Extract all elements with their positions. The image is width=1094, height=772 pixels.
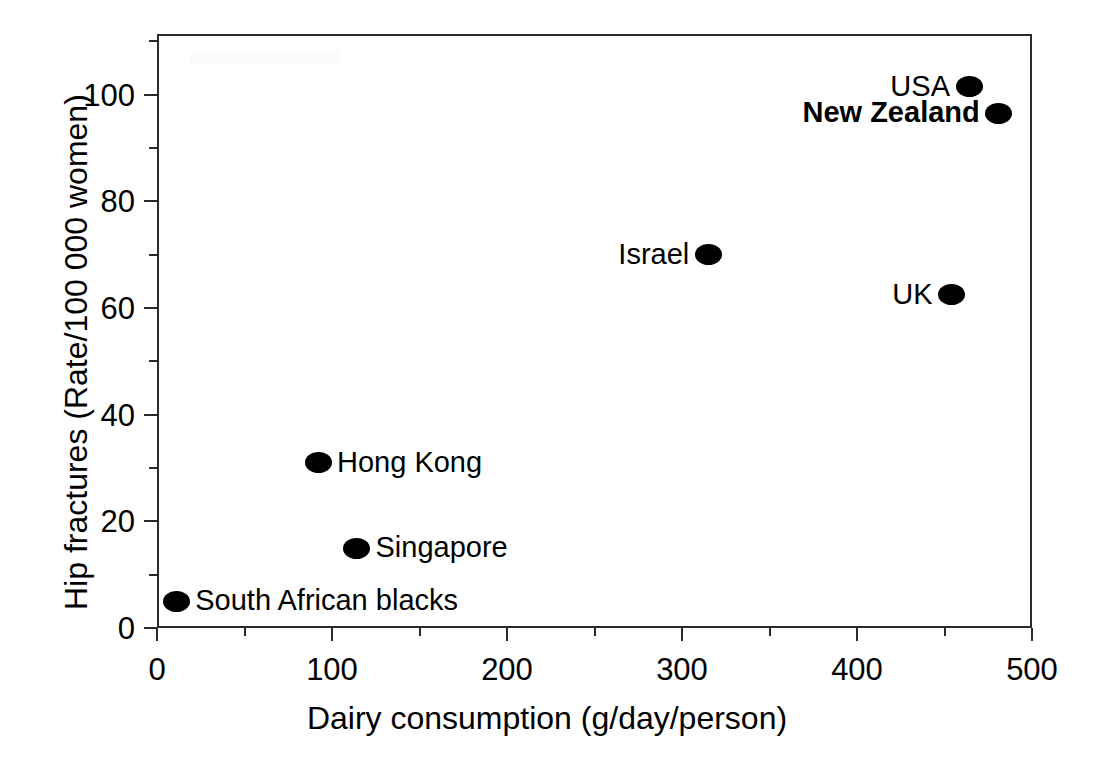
data-point-label: UK — [892, 280, 932, 309]
data-point-label: New Zealand — [802, 98, 979, 127]
x-tick-major-300 — [681, 628, 683, 641]
x-ticklabel-400: 400 — [831, 654, 883, 685]
y-tick-major-0 — [144, 627, 157, 629]
y-tick-minor-30 — [149, 467, 157, 469]
y-tick-major-60 — [144, 307, 157, 309]
x-axis-title: Dairy consumption (g/day/person) — [307, 700, 787, 736]
y-ticklabel-60: 60 — [101, 293, 135, 324]
x-tick-minor-50 — [244, 628, 246, 636]
x-tick-major-400 — [856, 628, 858, 641]
y-tick-minor-110 — [149, 40, 157, 42]
y-tick-major-100 — [144, 94, 157, 96]
y-tick-minor-50 — [149, 360, 157, 362]
y-tick-major-40 — [144, 414, 157, 416]
y-ticklabel-40: 40 — [101, 399, 135, 430]
x-tick-major-200 — [506, 628, 508, 641]
data-point-label: Singapore — [376, 533, 508, 562]
x-tick-major-500 — [1031, 628, 1033, 641]
scatter-chart: 0100200300400500 020406080100 South Afri… — [0, 0, 1094, 772]
data-point-marker — [343, 538, 370, 559]
x-ticklabel-0: 0 — [148, 654, 165, 685]
data-point-marker — [956, 76, 983, 97]
x-tick-minor-450 — [944, 628, 946, 636]
data-point-marker — [695, 244, 722, 265]
x-ticklabel-100: 100 — [306, 654, 358, 685]
y-tick-minor-90 — [149, 147, 157, 149]
y-ticklabel-80: 80 — [101, 186, 135, 217]
y-tick-major-20 — [144, 520, 157, 522]
data-point-label: Hong Kong — [337, 448, 482, 477]
x-ticklabel-200: 200 — [481, 654, 533, 685]
x-tick-major-0 — [156, 628, 158, 641]
x-tick-major-100 — [331, 628, 333, 641]
y-ticklabel-20: 20 — [101, 506, 135, 537]
x-tick-minor-250 — [594, 628, 596, 636]
data-point-marker — [985, 103, 1012, 124]
x-ticklabel-500: 500 — [1006, 654, 1058, 685]
x-tick-minor-150 — [419, 628, 421, 636]
y-tick-major-80 — [144, 200, 157, 202]
y-axis-title: Hip fractures (Rate/100 000 women) — [58, 94, 94, 610]
data-point-label: Israel — [618, 240, 689, 269]
data-point-label: South African blacks — [195, 586, 458, 615]
y-tick-minor-70 — [149, 254, 157, 256]
x-tick-minor-350 — [769, 628, 771, 636]
data-point-marker — [163, 591, 190, 612]
data-point-marker — [305, 452, 332, 473]
x-ticklabel-300: 300 — [656, 654, 708, 685]
y-tick-minor-10 — [149, 574, 157, 576]
y-ticklabel-0: 0 — [118, 613, 135, 644]
